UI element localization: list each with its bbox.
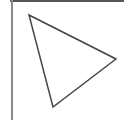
diagram-canvas — [0, 0, 124, 120]
triangle-outline — [29, 15, 116, 107]
triangle-shape — [0, 0, 124, 120]
